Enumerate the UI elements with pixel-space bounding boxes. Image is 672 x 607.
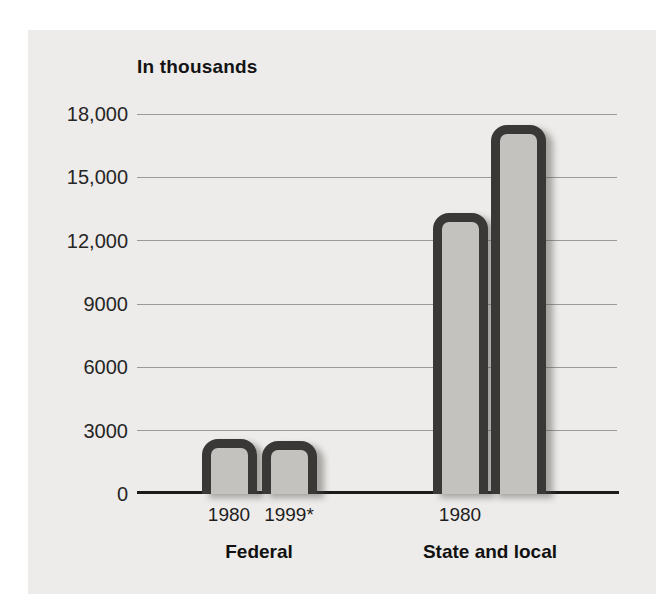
y-tick-label-9000: 9000 <box>30 293 128 315</box>
group-label-federal: Federal <box>159 540 359 564</box>
y-tick-label-0: 0 <box>30 483 128 505</box>
y-tick-label-3000: 3000 <box>30 420 128 442</box>
bar-state-and-local-1980 <box>433 213 488 494</box>
y-tick-label-12000: 12,000 <box>30 230 128 252</box>
x-tick-label-federal-1999: 1999* <box>244 504 334 526</box>
bar-federal-1980 <box>202 439 257 494</box>
group-label-state-and-local: State and local <box>390 540 590 564</box>
y-tick-label-18000: 18,000 <box>30 103 128 125</box>
x-tick-label-state-and-local-1980: 1980 <box>415 504 505 526</box>
y-tick-label-6000: 6000 <box>30 356 128 378</box>
chart-figure: In thousands 18,00015,00012,000900060003… <box>0 0 672 607</box>
bar-state-and-local-2 <box>491 125 546 494</box>
gridline-18000 <box>137 114 617 115</box>
chart-title: In thousands <box>137 56 258 78</box>
y-tick-label-15000: 15,000 <box>30 166 128 188</box>
bar-federal-1999 <box>262 441 317 494</box>
